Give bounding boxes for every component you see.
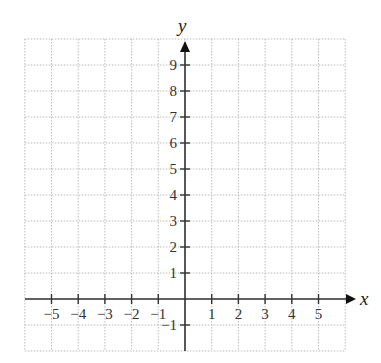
coordinate-plane: x y −5−4−3−2−112345987654321−1 (0, 0, 381, 363)
x-tick-label: −4 (70, 306, 86, 322)
x-tick-label: −3 (97, 306, 113, 322)
y-tick-label: 4 (170, 187, 178, 203)
y-tick-label: 8 (170, 83, 178, 99)
x-tick-label: 1 (208, 306, 216, 322)
y-tick-label: 3 (170, 213, 178, 229)
y-axis-label: y (176, 15, 187, 36)
y-axis-arrow-icon (180, 41, 190, 52)
y-tick-label: 2 (170, 239, 178, 255)
x-axis-label: x (359, 288, 369, 309)
x-axis-arrow-icon (346, 294, 356, 304)
y-tick-label: −1 (161, 317, 177, 333)
y-tick-label: 7 (170, 109, 178, 125)
y-tick-label: 5 (170, 161, 178, 177)
x-tick-label: −5 (44, 306, 60, 322)
x-tick-label: 5 (315, 306, 323, 322)
y-tick-label: 9 (170, 57, 178, 73)
y-tick-label: 1 (170, 265, 178, 281)
x-tick-label: 4 (288, 306, 296, 322)
x-tick-label: −2 (124, 306, 140, 322)
x-tick-label: 2 (235, 306, 243, 322)
y-tick-label: 6 (170, 135, 178, 151)
x-tick-label: 3 (261, 306, 269, 322)
